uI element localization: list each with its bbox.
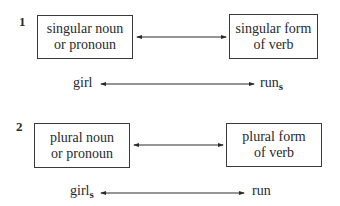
plural-noun-box: plural noun or pronoun bbox=[34, 123, 130, 168]
box-line: singular form bbox=[236, 21, 312, 37]
box-line: of verb bbox=[253, 37, 293, 53]
word-suffix: s bbox=[279, 80, 283, 92]
singular-noun-box: singular noun or pronoun bbox=[37, 15, 133, 59]
box-line: or pronoun bbox=[54, 37, 116, 53]
word-base: girl bbox=[73, 75, 92, 90]
example-noun-girls: girls bbox=[70, 183, 94, 199]
word-base: run bbox=[252, 183, 271, 198]
box-line: plural form bbox=[242, 129, 305, 145]
box-line: of verb bbox=[254, 145, 294, 161]
example-verb-run: run bbox=[252, 183, 271, 199]
singular-verb-box: singular form of verb bbox=[229, 14, 318, 59]
example-verb-runs: runs bbox=[260, 75, 283, 91]
plural-verb-box: plural form of verb bbox=[226, 123, 322, 167]
word-base: girl bbox=[70, 183, 89, 198]
box-line: plural noun bbox=[50, 130, 114, 146]
rule-number-1: 1 bbox=[19, 14, 26, 30]
rule-number-2: 2 bbox=[16, 119, 23, 135]
box-line: or pronoun bbox=[51, 146, 113, 162]
word-base: run bbox=[260, 75, 279, 90]
word-suffix: s bbox=[89, 188, 93, 200]
example-noun-girl: girl bbox=[73, 75, 92, 91]
box-line: singular noun bbox=[47, 21, 124, 37]
